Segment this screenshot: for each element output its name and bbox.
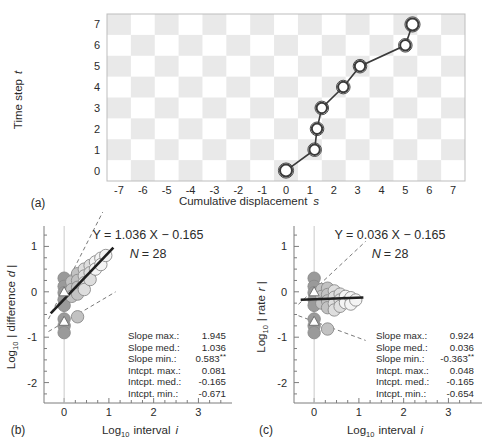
panel_c-y-tick: -1 <box>277 331 287 343</box>
panel_c-x-tick: 0 <box>311 406 317 418</box>
scatter-point <box>71 311 83 323</box>
panel-a-label: (a) <box>31 196 46 210</box>
panel_c-y-tick: 0 <box>281 286 287 298</box>
panel-a-x-tick: 1 <box>307 184 313 196</box>
panel-a-x-tick: 2 <box>331 184 337 196</box>
stat-name: Intcpt. max.: <box>128 365 181 376</box>
panel-a-y-tick: 4 <box>94 81 100 93</box>
scatter-point <box>321 323 333 335</box>
scatter-point <box>308 326 320 338</box>
panel-b-y-tick-labels: 10-1-2 <box>27 240 37 388</box>
stat-name: Intcpt. min.: <box>128 388 178 399</box>
panel_c-y-tick: 1 <box>281 240 287 252</box>
panel-c-n-label: N= 28 <box>372 247 409 261</box>
stat-value: -0.165 <box>447 376 474 387</box>
panel_b-x-tick: 3 <box>195 406 201 418</box>
stat-value: 0.583** <box>196 352 226 364</box>
stat-name: Intcpt. min.: <box>376 388 426 399</box>
stat-name: Intcpt. max.: <box>376 365 429 376</box>
panel-b-x-tick-labels: 0123 <box>61 406 201 418</box>
panel-a-y-tick-labels: 01234567 <box>94 18 100 176</box>
panel_b-x-tick: 2 <box>151 406 157 418</box>
panel_b-x-tick: 0 <box>61 406 67 418</box>
stat-value: 0.048 <box>450 365 474 376</box>
stat-value: 1.945 <box>202 330 226 341</box>
stat-value: -0.654 <box>447 388 475 399</box>
panel-a-chart: -7-6-5-4-3-2-101234567 01234567 Cumulati… <box>0 0 498 212</box>
panel-a-y-tick: 2 <box>94 123 100 135</box>
panel-b-stats-block: Slope max.:1.945Slope med.:1.036Slope mi… <box>128 330 226 399</box>
panel-a-x-tick: 3 <box>355 184 361 196</box>
stat-name: Slope max.: <box>376 330 427 341</box>
panel_b-y-tick: -1 <box>27 331 37 343</box>
panel-c-label: (c) <box>259 423 273 437</box>
stat-value: -0.363** <box>440 352 474 364</box>
panel-a-x-tick: 6 <box>426 184 432 196</box>
stat-name: Intcpt. med.: <box>376 376 429 387</box>
panel-c-y-axis-label: Log10| rater| <box>255 281 270 352</box>
stat-value: 0.081 <box>202 365 226 376</box>
panel-b-x-axis-label: Log10intervali <box>102 424 179 439</box>
panel-b-chart: 0123 10-1-2 Y = 1.036 X − 0.165 N= 28 Sl… <box>0 212 250 441</box>
panel_b-y-tick: 1 <box>31 240 37 252</box>
panel-a-x-tick: 5 <box>402 184 408 196</box>
panel-b-equation: Y = 1.036 X − 0.165 <box>93 228 204 242</box>
panel-a-y-tick: 0 <box>94 165 100 177</box>
stat-value: -0.671 <box>199 388 226 399</box>
stat-name: Slope min.: <box>376 353 424 364</box>
panel-a-y-axis-label: Time stept <box>12 70 24 129</box>
panel-a-y-tick: 6 <box>94 39 100 51</box>
panel_b-y-tick: -2 <box>27 377 37 389</box>
panel-a-y-tick: 7 <box>94 18 100 30</box>
stat-name: Intcpt. med.: <box>128 376 181 387</box>
stat-value: 0.924 <box>450 330 475 341</box>
panel-c-y-tick-labels: 10-1-2 <box>277 240 287 388</box>
panel-c-equation: Y = 0.036 X − 0.165 <box>335 228 446 242</box>
panel-c-x-axis-label: Log10intervali <box>347 424 424 439</box>
figure-container: -7-6-5-4-3-2-101234567 01234567 Cumulati… <box>0 0 498 441</box>
panel-a-y-tick: 1 <box>94 144 100 156</box>
panel-a-x-tick: -6 <box>138 184 148 196</box>
panel-a-x-tick: -7 <box>114 184 124 196</box>
panel-a-x-tick: -5 <box>162 184 172 196</box>
panel-a-y-tick: 5 <box>94 60 100 72</box>
panel-a-x-tick: 4 <box>378 184 384 196</box>
stat-name: Slope max.: <box>128 330 179 341</box>
panel-b-label: (b) <box>11 423 26 437</box>
panel-c-stats-block: Slope max.:0.924Slope med.:0.036Slope mi… <box>376 330 475 399</box>
panel-a-y-tick: 3 <box>94 102 100 114</box>
checkerboard-grid <box>107 14 465 181</box>
scatter-point <box>58 326 70 338</box>
stat-name: Slope min.: <box>128 353 176 364</box>
stat-name: Slope med.: <box>128 342 180 353</box>
panel_c-y-tick: -2 <box>277 377 287 389</box>
panel-c-chart: 0123 10-1-2 Y = 0.036 X − 0.165 N= 28 Sl… <box>250 212 498 441</box>
stat-name: Slope med.: <box>376 342 428 353</box>
panel_c-x-tick: 1 <box>356 406 362 418</box>
panel-b-y-axis-label: Log10| differenced| <box>5 265 20 369</box>
panel_b-x-tick: 1 <box>106 406 112 418</box>
panel_c-x-tick: 3 <box>445 406 451 418</box>
scatter-point <box>350 294 362 306</box>
panel-b-n-label: N= 28 <box>130 247 167 261</box>
stat-value: -0.165 <box>199 376 226 387</box>
panel-a-x-axis-label: Cumulative displacements <box>179 195 319 207</box>
panel-c-x-tick-labels: 0123 <box>311 406 451 418</box>
panel_b-y-tick: 0 <box>31 286 37 298</box>
stat-value: 1.036 <box>202 342 226 353</box>
panel_c-x-tick: 2 <box>401 406 407 418</box>
panel-a-x-tick: 7 <box>450 184 456 196</box>
stat-value: 0.036 <box>450 342 474 353</box>
